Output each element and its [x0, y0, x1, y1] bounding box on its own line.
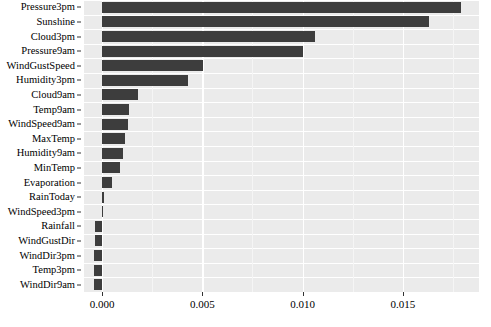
y-tick-label-WindDir9am: WindDir9am: [20, 279, 75, 290]
bar-Humidity3pm: [102, 75, 188, 86]
y-tick-label-Rainfall: Rainfall: [41, 221, 75, 232]
y-tick-label-WindSpeed9am: WindSpeed9am: [8, 119, 75, 130]
plot-panel: [84, 0, 479, 292]
bar-Temp3pm: [94, 265, 102, 276]
horizontal-gridline: [84, 277, 479, 278]
bar-WindDir3pm: [94, 250, 102, 261]
y-tick-label-MinTemp: MinTemp: [34, 163, 75, 174]
bar-Evaporation: [102, 177, 112, 188]
x-tick-mark: [303, 292, 304, 296]
bar-WindGustSpeed: [102, 60, 203, 71]
y-tick-mark: [77, 65, 81, 66]
horizontal-gridline: [84, 175, 479, 176]
y-tick-label-Sunshine: Sunshine: [36, 17, 75, 28]
y-tick-mark: [77, 211, 81, 212]
x-tick-label-2: 0.010: [290, 298, 315, 310]
bar-WindDir9am: [94, 279, 102, 290]
horizontal-gridline: [84, 248, 479, 249]
bar-WindSpeed3pm: [102, 206, 103, 217]
y-tick-label-RainToday: RainToday: [29, 192, 75, 203]
y-tick-mark: [77, 51, 81, 52]
y-tick-label-Temp3pm: Temp3pm: [33, 265, 75, 276]
y-tick-mark: [77, 124, 81, 125]
bar-RainToday: [102, 192, 104, 203]
bar-Temp9am: [102, 104, 129, 115]
y-tick-label-Evaporation: Evaporation: [24, 177, 75, 188]
horizontal-gridline: [84, 263, 479, 264]
y-tick-label-Cloud9am: Cloud9am: [31, 90, 75, 101]
major-gridline: [202, 0, 203, 292]
bar-Pressure3pm: [102, 2, 461, 13]
minor-gridline: [152, 0, 153, 292]
y-tick-label-Cloud3pm: Cloud3pm: [31, 31, 75, 42]
y-tick-label-MaxTemp: MaxTemp: [32, 133, 75, 144]
x-tick-mark: [202, 292, 203, 296]
y-tick-label-WindDir3pm: WindDir3pm: [19, 250, 75, 261]
y-tick-mark: [77, 226, 81, 227]
minor-gridline: [353, 0, 354, 292]
x-tick-label-1: 0.005: [190, 298, 215, 310]
x-tick-label-3: 0.015: [390, 298, 415, 310]
horizontal-gridline: [84, 131, 479, 132]
y-tick-mark: [77, 240, 81, 241]
y-tick-label-Pressure9am: Pressure9am: [21, 46, 75, 57]
x-tick-mark: [403, 292, 404, 296]
y-tick-mark: [77, 182, 81, 183]
bar-MinTemp: [102, 162, 120, 173]
minor-gridline: [252, 0, 253, 292]
y-tick-mark: [77, 21, 81, 22]
y-tick-label-WindGustDir: WindGustDir: [18, 236, 75, 247]
y-tick-mark: [77, 255, 81, 256]
horizontal-gridline: [84, 234, 479, 235]
major-gridline: [102, 0, 103, 292]
x-axis: 0.0000.0050.0100.015: [84, 292, 479, 327]
y-tick-mark: [77, 284, 81, 285]
bar-WindSpeed9am: [102, 119, 128, 130]
bar-Pressure9am: [102, 46, 303, 57]
horizontal-gridline: [84, 219, 479, 220]
bar-Rainfall: [95, 221, 102, 232]
y-tick-label-WindGustSpeed: WindGustSpeed: [7, 60, 75, 71]
y-tick-mark: [77, 167, 81, 168]
y-tick-mark: [77, 7, 81, 8]
y-tick-mark: [77, 36, 81, 37]
x-tick-mark: [102, 292, 103, 296]
bar-Humidity9am: [102, 148, 123, 159]
y-tick-mark: [77, 270, 81, 271]
bar-Sunshine: [102, 16, 429, 27]
major-gridline: [303, 0, 304, 292]
major-gridline: [403, 0, 404, 292]
y-tick-mark: [77, 94, 81, 95]
y-tick-mark: [77, 153, 81, 154]
horizontal-gridline: [84, 102, 479, 103]
bar-WindGustDir: [95, 235, 102, 246]
horizontal-gridline: [84, 204, 479, 205]
y-tick-label-Humidity9am: Humidity9am: [17, 148, 75, 159]
feature-importance-chart: Pressure3pmSunshineCloud3pmPressure9amWi…: [0, 0, 491, 327]
y-tick-mark: [77, 109, 81, 110]
horizontal-gridline: [84, 117, 479, 118]
horizontal-gridline: [84, 88, 479, 89]
minor-gridline: [453, 0, 454, 292]
y-tick-label-Humidity3pm: Humidity3pm: [16, 75, 75, 86]
x-tick-label-0: 0.000: [90, 298, 115, 310]
bar-Cloud9am: [102, 89, 138, 100]
bar-MaxTemp: [102, 133, 125, 144]
y-tick-label-Pressure3pm: Pressure3pm: [21, 2, 75, 13]
horizontal-gridline: [84, 161, 479, 162]
horizontal-gridline: [84, 190, 479, 191]
y-tick-label-Temp9am: Temp9am: [33, 104, 75, 115]
y-tick-label-WindSpeed3pm: WindSpeed3pm: [8, 206, 75, 217]
y-tick-mark: [77, 197, 81, 198]
bar-Cloud3pm: [102, 31, 315, 42]
horizontal-gridline: [84, 146, 479, 147]
y-tick-mark: [77, 80, 81, 81]
y-axis: Pressure3pmSunshineCloud3pmPressure9amWi…: [0, 0, 84, 292]
y-tick-mark: [77, 138, 81, 139]
